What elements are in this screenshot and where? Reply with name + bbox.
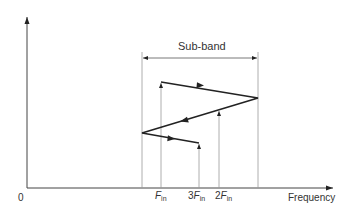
tick-sub: in [200,195,205,202]
origin-label: 0 [18,192,24,203]
folding-path [142,82,258,143]
tick-label-fin: Fin [155,190,167,201]
tick-sub: in [161,195,166,202]
tick-var: F [194,190,200,201]
x-axis-label: Frequency [288,192,335,203]
tick-sub: in [227,195,232,202]
tick-label-2fin: 2Fin [215,190,232,201]
subband-folding-diagram [0,0,351,211]
tick-var: F [221,190,227,201]
direction-arrow-1 [196,82,204,88]
tick-label-3fin: 3Fin [188,190,205,201]
subband-label: Sub-band [178,40,226,52]
